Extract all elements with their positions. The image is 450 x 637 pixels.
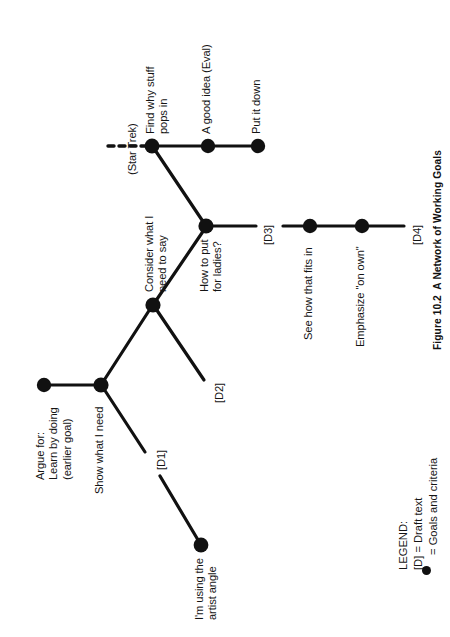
draft-label-d2: [D2] [213, 383, 226, 403]
edge-consider-d2 [154, 306, 204, 380]
node-label-argue-for-learn-by-doing: Argue for: Learn by doing (earlier goal) [34, 407, 74, 480]
figure-caption: Figure 10.2 A Network of Working Goals [432, 150, 443, 350]
node-argue-for[interactable] [37, 378, 51, 392]
edge-show-consider [101, 306, 152, 385]
node-label-im-using-the-artist-angle: I'm using the artist angle [193, 558, 220, 620]
node-see-how-that-fits-in[interactable] [303, 219, 317, 233]
node-im-using-the-artist-angle[interactable] [194, 538, 209, 553]
filled-circle-icon [422, 566, 431, 575]
node-label-how-to-put-for-ladies: How to put for ladies? [198, 240, 225, 292]
network-diagram-canvas [0, 0, 450, 637]
legend-goals-line: = Goals and criteria [426, 458, 441, 555]
node-group [37, 139, 369, 553]
node-put-it-down[interactable] [251, 139, 265, 153]
draft-label-d1: [D1] [155, 450, 168, 470]
node-label-put-it-down: Put it down [250, 80, 263, 134]
node-label-find-why-stuff-pops-in: Find why stuff pops in [144, 67, 171, 134]
draft-label-d4: [D4] [411, 225, 424, 245]
node-find-why-stuff-pops-in[interactable] [145, 139, 160, 154]
node-show-what-i-need[interactable] [93, 377, 108, 392]
draft-label-d3: [D3] [262, 225, 275, 245]
annotation-star-trek: (Star Trek) [126, 123, 139, 175]
node-label-emphasize-on-own: Emphasize "on own" [354, 246, 367, 347]
edge-findwhy-howtoput [153, 147, 206, 226]
node-label-show-what-i-need: Show what I need [93, 407, 106, 494]
node-label-see-how-that-fits-in: See how that fits in [302, 247, 315, 340]
node-emphasize-on-own[interactable] [355, 219, 369, 233]
node-consider-what-i-need-to-say[interactable] [145, 297, 160, 312]
legend-title: LEGEND: [396, 521, 411, 570]
node-how-to-put-for-ladies[interactable] [198, 218, 213, 233]
figure-network-of-working-goals: (Star Trek) Find why stuff pops in A goo… [0, 0, 450, 637]
node-label-consider-what-i-need-to-say: Consider what I need to say [143, 216, 170, 292]
edge-show-d1 [102, 386, 145, 452]
legend-draft-text-line: [D] = Draft text [411, 498, 426, 570]
node-label-a-good-idea-eval: A good idea (Eval) [200, 44, 213, 134]
edge-d1-artist [160, 476, 201, 545]
node-a-good-idea-eval[interactable] [201, 139, 215, 153]
